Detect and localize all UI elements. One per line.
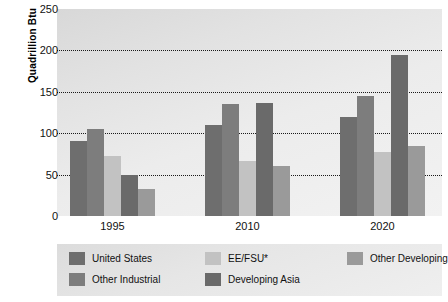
bar-developing-asia-1995 <box>121 175 138 216</box>
legend-swatch-icon <box>205 273 221 286</box>
legend-item-developing-asia[interactable]: Developing Asia <box>205 273 300 286</box>
y-tick-200: 200 <box>14 44 58 56</box>
bar-united-states-1995 <box>70 141 87 216</box>
bar-united-states-2010 <box>205 125 222 216</box>
bar-other-industrial-2010 <box>222 104 239 216</box>
bar-ee-fsu-2010 <box>239 161 256 216</box>
bars-layer <box>57 9 442 216</box>
legend-item-other-industrial[interactable]: Other Industrial <box>69 273 160 286</box>
legend-item-united-states[interactable]: United States <box>69 252 152 265</box>
legend-label: United States <box>92 253 152 264</box>
bar-ee-fsu-2020 <box>374 152 391 216</box>
y-tick-0: 0 <box>14 210 58 222</box>
legend-label: Developing Asia <box>228 274 300 285</box>
y-tick-50: 50 <box>14 169 58 181</box>
legend-item-other-developing[interactable]: Other Developing <box>347 252 448 265</box>
bar-ee-fsu-1995 <box>104 156 121 216</box>
bar-group-2020 <box>340 9 425 216</box>
bar-other-developing-1995 <box>138 189 155 216</box>
legend-swatch-icon <box>205 252 221 265</box>
y-tick-100: 100 <box>14 127 58 139</box>
legend-label: Other Developing <box>370 253 448 264</box>
y-tick-250: 250 <box>14 3 58 15</box>
bar-united-states-2020 <box>340 117 357 216</box>
legend-label: EE/FSU* <box>228 253 268 264</box>
bar-other-developing-2020 <box>408 146 425 216</box>
bar-group-1995 <box>70 9 155 216</box>
legend-label: Other Industrial <box>92 274 160 285</box>
x-tick-2020: 2020 <box>343 220 423 232</box>
bar-developing-asia-2010 <box>256 103 273 216</box>
x-tick-1995: 1995 <box>73 220 153 232</box>
legend-item-ee-fsu[interactable]: EE/FSU* <box>205 252 268 265</box>
bar-group-2010 <box>205 9 290 216</box>
bar-developing-asia-2020 <box>391 55 408 216</box>
legend-swatch-icon <box>347 252 363 265</box>
legend-swatch-icon <box>69 252 85 265</box>
legend-swatch-icon <box>69 273 85 286</box>
plot-area <box>57 9 442 216</box>
chart-legend: United StatesOther IndustrialEE/FSU*Deve… <box>57 244 442 296</box>
y-tick-150: 150 <box>14 86 58 98</box>
bar-other-industrial-2020 <box>357 96 374 216</box>
x-tick-2010: 2010 <box>208 220 288 232</box>
bar-other-industrial-1995 <box>87 129 104 216</box>
bar-other-developing-2010 <box>273 166 290 217</box>
